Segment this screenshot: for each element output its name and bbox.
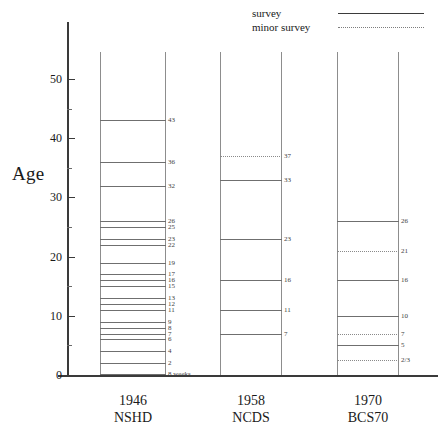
survey-sweep-label: 25 — [168, 224, 175, 231]
survey-sweep-line: 32 — [100, 186, 166, 187]
cohort-column-ncds: 373323161171958NCDS — [220, 0, 282, 445]
survey-sweep-line: 16 — [337, 280, 399, 281]
survey-sweep-line: 16 — [100, 280, 166, 281]
survey-sweep-label: 16 — [401, 277, 408, 284]
cohort-sweep-chart: survey minor survey Age 01020304050 4336… — [0, 0, 444, 445]
survey-sweep-line: 26 — [337, 221, 399, 222]
survey-sweep-line: 23 — [100, 239, 166, 240]
survey-sweep-label: 33 — [284, 177, 291, 184]
survey-sweep-line: 21 — [337, 251, 399, 252]
survey-sweep-label: 7 — [401, 331, 405, 338]
cohort-year-label: 1958 — [232, 392, 269, 409]
survey-sweep-line: 2 — [100, 363, 166, 364]
survey-sweep-label: 21 — [401, 248, 408, 255]
y-tick-major — [67, 138, 75, 139]
cohort-year-label: 1946 — [114, 392, 152, 409]
y-tick-major — [67, 257, 75, 258]
cohort-caption: 1946NSHD — [114, 392, 152, 426]
cohort-rail-right — [398, 52, 399, 375]
cohort-caption: 1970BCS70 — [348, 392, 388, 426]
cohort-rail-left — [337, 52, 338, 375]
y-tick-label: 30 — [32, 190, 62, 205]
survey-sweep-label: 37 — [284, 153, 291, 160]
survey-sweep-line: 12 — [100, 304, 166, 305]
cohort-year-label: 1970 — [348, 392, 388, 409]
cohort-name-label: NCDS — [232, 409, 269, 426]
y-tick-label: 10 — [32, 309, 62, 324]
survey-sweep-label: 2/3 — [401, 357, 410, 364]
survey-sweep-line: 15 — [100, 286, 166, 287]
survey-sweep-label: 22 — [168, 242, 175, 249]
survey-sweep-line: 7 — [100, 334, 166, 335]
survey-sweep-line: 2/3 — [337, 360, 399, 361]
survey-sweep-label: 32 — [168, 183, 175, 190]
survey-sweep-line: 7 — [337, 334, 399, 335]
y-tick-minor — [67, 345, 72, 346]
y-tick-label: 0 — [32, 368, 62, 383]
survey-sweep-line: 37 — [220, 156, 282, 157]
survey-sweep-line: 4 — [100, 351, 166, 352]
cohort-rail-left — [100, 52, 101, 375]
survey-sweep-line: 22 — [100, 245, 166, 246]
survey-sweep-label: 15 — [168, 283, 175, 290]
y-tick-label: 50 — [32, 72, 62, 87]
survey-sweep-line: 43 — [100, 120, 166, 121]
survey-sweep-line: 8 weeks — [100, 374, 166, 375]
survey-sweep-label: 4 — [168, 348, 172, 355]
survey-sweep-label: 2 — [168, 360, 172, 367]
cohort-name-label: BCS70 — [348, 409, 388, 426]
y-tick-minor — [67, 227, 72, 228]
survey-sweep-line: 25 — [100, 227, 166, 228]
cohort-column-bcs70: 26211610752/31970BCS70 — [337, 0, 399, 445]
cohort-column-nshd: 43363226252322191716151312119876428 week… — [100, 0, 166, 445]
y-tick-major — [67, 79, 75, 80]
survey-sweep-line: 7 — [220, 334, 282, 335]
survey-sweep-label: 10 — [401, 313, 408, 320]
survey-sweep-line: 36 — [100, 162, 166, 163]
survey-sweep-label: 36 — [168, 159, 175, 166]
y-tick-minor — [67, 168, 72, 169]
cohort-caption: 1958NCDS — [232, 392, 269, 426]
survey-sweep-line: 26 — [100, 221, 166, 222]
survey-sweep-label: 26 — [401, 218, 408, 225]
survey-sweep-label: 11 — [284, 307, 291, 314]
survey-sweep-label: 43 — [168, 117, 175, 124]
survey-sweep-label: 6 — [168, 336, 172, 343]
survey-sweep-line: 23 — [220, 239, 282, 240]
survey-sweep-label: 23 — [284, 236, 291, 243]
survey-sweep-label: 7 — [284, 331, 288, 338]
cohort-rail-right — [281, 52, 282, 375]
survey-sweep-line: 11 — [100, 310, 166, 311]
y-tick-minor — [67, 109, 72, 110]
survey-sweep-label: 19 — [168, 260, 175, 267]
survey-sweep-line: 33 — [220, 180, 282, 181]
y-tick-major — [67, 375, 75, 376]
y-axis-title: Age — [12, 163, 45, 185]
survey-sweep-line: 11 — [220, 310, 282, 311]
y-tick-label: 40 — [32, 131, 62, 146]
survey-sweep-label: 5 — [401, 342, 405, 349]
survey-sweep-line: 5 — [337, 345, 399, 346]
survey-sweep-line: 16 — [220, 280, 282, 281]
survey-sweep-line: 10 — [337, 316, 399, 317]
survey-sweep-line: 9 — [100, 322, 166, 323]
cohort-name-label: NSHD — [114, 409, 152, 426]
y-axis — [67, 22, 69, 376]
survey-sweep-line: 13 — [100, 298, 166, 299]
y-tick-minor — [67, 286, 72, 287]
survey-sweep-line: 17 — [100, 274, 166, 275]
survey-sweep-line: 8 — [100, 328, 166, 329]
survey-sweep-line: 19 — [100, 263, 166, 264]
y-tick-label: 20 — [32, 250, 62, 265]
survey-sweep-line: 6 — [100, 339, 166, 340]
y-tick-major — [67, 316, 75, 317]
survey-sweep-label: 11 — [168, 307, 175, 314]
survey-sweep-label: 8 weeks — [168, 371, 191, 378]
cohort-rail-right — [165, 52, 166, 375]
survey-sweep-label: 16 — [284, 277, 291, 284]
y-tick-major — [67, 197, 75, 198]
cohort-rail-left — [220, 52, 221, 375]
